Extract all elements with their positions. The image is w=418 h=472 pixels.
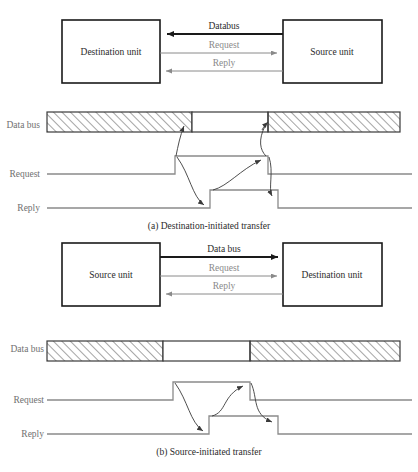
causal-arrow-request-rise-to-reply-b [175,383,203,431]
causal-arrow-reply-rise-to-request-fall-a [213,160,261,190]
bus-segment-invalid-left-a [47,112,192,132]
reply-waveform-label-a: Reply [17,203,40,213]
request-waveform-label-b: Request [13,395,44,405]
request-signal-label-b: Request [209,263,240,273]
databus-signal-label: Databus [208,21,239,31]
section-a-timing-diagram: Data bus Request Reply (a) Destination-i… [6,112,412,232]
request-signal-label: Request [209,40,240,50]
destination-unit-label-b: Destination unit [302,270,363,280]
section-a-caption: (a) Destination-initiated transfer [148,221,271,232]
source-unit-label: Source unit [310,47,354,57]
section-a-block-diagram: Destination unit Source unit Databus Req… [62,20,382,83]
reply-signal-label-b: Reply [213,281,236,291]
data-bus-signal-label-b: Data bus [207,244,241,254]
reply-waveform-label-b: Reply [21,429,44,439]
section-b-block-diagram: Source unit Destination unit Data bus Re… [62,243,382,306]
data-bus-timing-label-b: Data bus [10,344,44,354]
causal-arrow-reply-rise-to-request-fall-b [212,386,243,416]
bus-segment-valid-a [192,112,268,132]
handshaking-figure: Destination unit Source unit Databus Req… [0,0,418,472]
request-waveform-a [47,156,412,174]
destination-unit-label: Destination unit [81,47,142,57]
bus-segment-invalid-left-b [47,341,163,361]
request-waveform-label-a: Request [9,169,40,179]
bus-segment-valid-b [163,341,250,361]
bus-segment-invalid-right-b [250,341,400,361]
reply-waveform-b [47,416,412,434]
data-bus-timing-label-a: Data bus [6,120,40,130]
reply-waveform-a [47,190,412,208]
causal-arrow-request-rise-to-reply-a [177,157,204,205]
source-unit-label-b: Source unit [89,270,133,280]
section-b-caption: (b) Source-initiated transfer [156,447,262,458]
bus-segment-invalid-right-a [268,112,400,132]
reply-signal-label: Reply [213,58,236,68]
section-b-timing-diagram: Data bus Request Reply (b) Source-initia… [10,341,412,458]
